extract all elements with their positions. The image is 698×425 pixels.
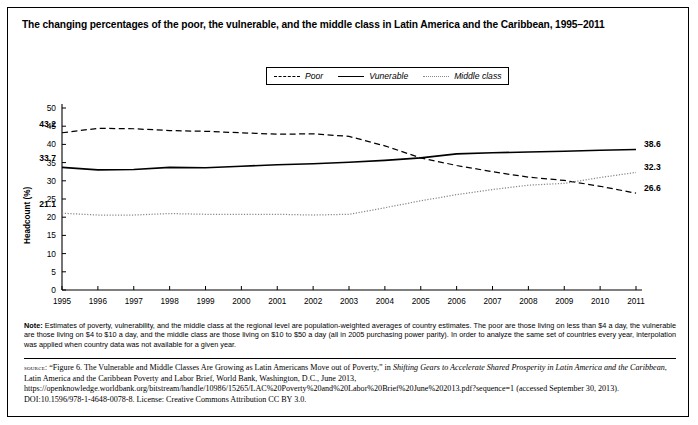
svg-text:2007: 2007 [483, 297, 502, 306]
divider [24, 358, 676, 359]
svg-text:2008: 2008 [519, 297, 538, 306]
svg-text:2003: 2003 [340, 297, 359, 306]
figure-source: source: “Figure 6. The Vulnerable and Mi… [24, 363, 676, 405]
legend-item-poor: Poor [274, 71, 323, 81]
svg-text:20: 20 [47, 212, 57, 222]
legend-label-poor: Poor [305, 71, 323, 81]
svg-text:32.3: 32.3 [644, 162, 661, 172]
svg-text:2000: 2000 [232, 297, 251, 306]
svg-text:2011: 2011 [627, 297, 645, 306]
svg-text:38.6: 38.6 [644, 139, 661, 149]
legend-item-vulnerable: Vunerable [338, 71, 408, 81]
dotted-line-icon [423, 73, 449, 80]
svg-text:2010: 2010 [591, 297, 610, 306]
figure-note: Note: Estimates of poverty, vulnerabilit… [24, 321, 676, 349]
svg-text:26.6: 26.6 [644, 183, 661, 193]
svg-text:2001: 2001 [268, 297, 287, 306]
dashed-line-icon [274, 73, 300, 80]
svg-text:1995: 1995 [53, 297, 72, 306]
chart-legend: Poor Vunerable Middle class [266, 67, 509, 85]
svg-text:2006: 2006 [448, 297, 467, 306]
note-text: Estimates of poverty, vulnerability, and… [24, 321, 676, 349]
svg-text:30: 30 [47, 176, 57, 186]
legend-item-middle-class: Middle class [423, 71, 501, 81]
svg-text:43.2: 43.2 [39, 119, 56, 129]
svg-text:15: 15 [47, 230, 57, 240]
plot-area: Headcount (%) 05101520253035404550199519… [8, 94, 690, 326]
solid-line-icon [338, 73, 364, 80]
source-italic-title: Shifting Gears to Accelerate Shared Pros… [393, 363, 665, 372]
svg-text:1997: 1997 [125, 297, 144, 306]
svg-text:2005: 2005 [412, 297, 431, 306]
svg-text:40: 40 [47, 139, 57, 149]
svg-text:21.1: 21.1 [39, 199, 56, 209]
legend-label-middle-class: Middle class [454, 71, 501, 81]
note-prefix: Note: [24, 321, 43, 330]
line-chart: 0510152025303540455019951996199719981999… [8, 94, 690, 326]
source-part1: “Figure 6. The Vulnerable and Middle Cla… [47, 363, 393, 372]
legend-label-vulnerable: Vunerable [369, 71, 408, 81]
svg-text:1996: 1996 [89, 297, 108, 306]
svg-text:10: 10 [47, 249, 57, 259]
svg-text:1998: 1998 [161, 297, 180, 306]
source-prefix: source: [24, 363, 47, 372]
svg-text:1999: 1999 [196, 297, 215, 306]
svg-text:2002: 2002 [304, 297, 323, 306]
svg-text:2009: 2009 [555, 297, 574, 306]
svg-text:2004: 2004 [376, 297, 395, 306]
figure-title: The changing percentages of the poor, th… [22, 19, 672, 31]
svg-text:0: 0 [51, 285, 56, 295]
figure-container: The changing percentages of the poor, th… [7, 7, 689, 417]
svg-text:33.7: 33.7 [39, 153, 56, 163]
svg-text:5: 5 [51, 267, 56, 277]
svg-text:50: 50 [47, 103, 57, 113]
